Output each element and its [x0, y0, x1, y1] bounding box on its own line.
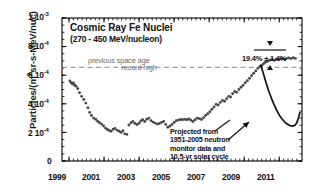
chart-title: Cosmic Ray Fe Nuclei [70, 22, 172, 33]
projection-annotation: Projected from 1951-2005 neutron monitor… [170, 128, 230, 162]
chart-subtitle: (270 - 450 MeV/nucleon) [70, 34, 162, 44]
reference-line-label-line2: record high [88, 64, 190, 72]
cosmic-ray-fe-nuclei-chart: Particles/(m2sr-s-MeV/nuc) 1 10-3 8 10-4… [0, 0, 316, 196]
x-tick-label-2007: 2007 [187, 172, 205, 182]
y-tick-label-8e-4: 8 10-4 [28, 40, 49, 51]
percent-annotation-label: 19.4% ± 1.4% [242, 54, 286, 63]
projected-data-series [261, 65, 300, 126]
projection-annotation-line4: 10.5-yr solar cycle [170, 153, 230, 161]
y-tick-label-2e-4: 2 10-4 [28, 127, 49, 138]
x-tick-label-2003: 2003 [117, 172, 135, 182]
x-tick-label-2001: 2001 [82, 172, 100, 182]
x-tick-label-1999: 1999 [48, 172, 66, 182]
y-tick-label-6e-4: 6 10-4 [28, 69, 49, 80]
x-tick-label-2011: 2011 [257, 172, 275, 182]
x-tick-label-2005: 2005 [152, 172, 170, 182]
y-tick-label-0: 0 [47, 156, 52, 166]
y-tick-label-1e-3: 1 10-3 [28, 11, 49, 22]
x-tick-label-2009: 2009 [222, 172, 240, 182]
y-tick-label-4e-4: 4 10-4 [28, 98, 49, 109]
